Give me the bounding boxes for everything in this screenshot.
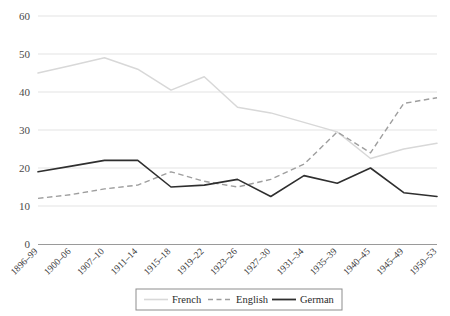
y-tick-label-50: 50 bbox=[19, 48, 31, 60]
y-tick-label-20: 20 bbox=[19, 162, 31, 174]
x-tick-label-7: 1927–30 bbox=[242, 246, 273, 277]
x-tick-label-6: 1923–26 bbox=[208, 246, 239, 277]
series-layer bbox=[38, 58, 437, 199]
x-tick-label-5: 1919–22 bbox=[175, 246, 206, 277]
y-axis-tick-labels: 0102030405060 bbox=[19, 10, 31, 250]
series-line-english bbox=[38, 98, 437, 199]
x-tick-label-3: 1911–14 bbox=[109, 246, 140, 277]
x-tick-label-9: 1935–39 bbox=[308, 246, 339, 277]
line-chart: 0102030405060 1896–991900–061907–101911–… bbox=[0, 0, 450, 316]
x-tick-label-10: 1940–45 bbox=[341, 246, 372, 277]
x-tick-label-4: 1915–18 bbox=[142, 246, 173, 277]
x-tick-label-0: 1896–99 bbox=[9, 246, 40, 277]
y-tick-label-60: 60 bbox=[19, 10, 31, 22]
x-tick-label-11: 1945–49 bbox=[375, 246, 406, 277]
chart-legend: FrenchEnglishGerman bbox=[136, 289, 342, 310]
y-tick-label-30: 30 bbox=[19, 124, 31, 136]
x-axis-tick-labels: 1896–991900–061907–101911–141915–181919–… bbox=[9, 246, 439, 277]
y-tick-label-40: 40 bbox=[19, 86, 31, 98]
x-tick-label-8: 1931–34 bbox=[275, 246, 306, 277]
series-line-german bbox=[38, 160, 437, 196]
legend-label-french: French bbox=[172, 294, 202, 305]
x-tick-label-1: 1900–06 bbox=[42, 246, 73, 277]
x-tick-label-2: 1907–10 bbox=[75, 246, 106, 277]
legend-label-german: German bbox=[300, 294, 335, 305]
gridlines bbox=[38, 16, 437, 206]
legend-label-english: English bbox=[236, 294, 269, 305]
x-tick-label-12: 1950–53 bbox=[408, 246, 439, 277]
chart-canvas: 0102030405060 1896–991900–061907–101911–… bbox=[0, 0, 450, 316]
y-tick-label-10: 10 bbox=[19, 200, 31, 212]
